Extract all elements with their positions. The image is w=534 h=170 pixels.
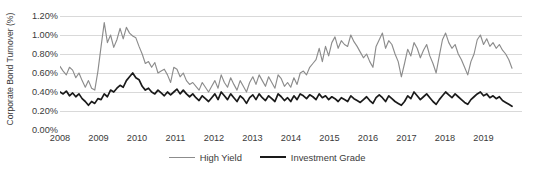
x-axis-tick-label: 2018	[425, 132, 465, 144]
series-line-investment-grade	[60, 73, 512, 106]
plot-area	[60, 16, 522, 130]
x-axis-tick-label: 2016	[348, 132, 388, 144]
x-axis-tick-label: 2009	[79, 132, 119, 144]
x-axis-tick-label: 2010	[117, 132, 157, 144]
legend-item-high-yield[interactable]: High Yield	[169, 152, 242, 163]
x-axis-tick-label: 2015	[310, 132, 350, 144]
x-axis-tick-label: 2019	[464, 132, 504, 144]
chart-legend: High Yield Investment Grade	[0, 148, 534, 166]
y-axis-tick-label: 0.80%	[14, 49, 58, 59]
x-axis-tick-label: 2008	[40, 132, 80, 144]
x-axis-tick-label: 2014	[271, 132, 311, 144]
x-axis-tick-labels: 2008200920102011201220132014201520162017…	[60, 132, 522, 146]
legend-swatch-high-yield-icon	[169, 157, 195, 158]
y-axis-tick-label: 0.40%	[14, 87, 58, 97]
y-axis-tick-label: 1.00%	[14, 30, 58, 40]
series-line-high-yield	[60, 23, 512, 92]
y-axis-tick-label: 0.60%	[14, 68, 58, 78]
legend-swatch-investment-grade-icon	[260, 156, 286, 158]
x-axis-tick-label: 2011	[156, 132, 196, 144]
legend-label-investment-grade: Investment Grade	[291, 152, 366, 163]
corporate-bond-turnover-chart: Corporate Bond Turnover (%) 0.00%0.20%0.…	[0, 0, 534, 170]
x-axis-tick-label: 2012	[194, 132, 234, 144]
y-axis-tick-label: 1.20%	[14, 11, 58, 21]
x-axis-tick-label: 2017	[387, 132, 427, 144]
y-axis-tick-label: 0.20%	[14, 106, 58, 116]
x-axis-tick-label: 2013	[233, 132, 273, 144]
legend-label-high-yield: High Yield	[200, 152, 242, 163]
legend-item-investment-grade[interactable]: Investment Grade	[260, 152, 366, 163]
plot-svg	[60, 16, 522, 130]
y-axis-tick-labels: 0.00%0.20%0.40%0.60%0.80%1.00%1.20%	[14, 0, 58, 170]
